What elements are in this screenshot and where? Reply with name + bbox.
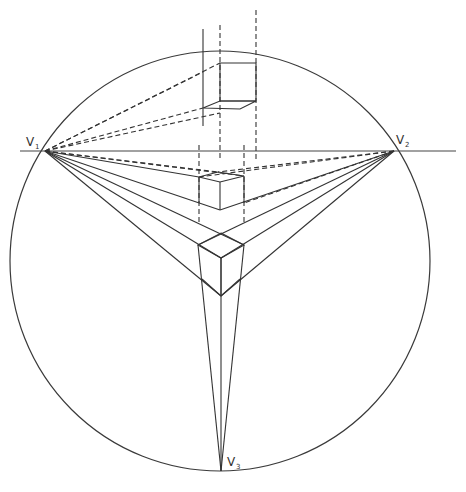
cube-top-projection	[203, 63, 256, 109]
ray	[221, 245, 244, 471]
ray	[45, 151, 221, 258]
ray	[45, 151, 220, 210]
label-v2: V 2	[396, 133, 409, 149]
ray	[45, 151, 221, 296]
cube-bottom-top	[198, 233, 244, 258]
cube-top-front-face	[220, 63, 256, 101]
ray	[221, 151, 394, 296]
label-v2-letter: V	[396, 133, 405, 147]
ray	[221, 151, 394, 258]
label-v1-subscript: 1	[35, 143, 39, 151]
cube-top-base	[203, 101, 256, 109]
label-v2-subscript: 2	[405, 141, 409, 149]
label-v3-subscript: 3	[236, 463, 240, 471]
ray	[45, 151, 244, 245]
label-v3-letter: V	[227, 455, 236, 469]
ray	[198, 151, 394, 245]
label-v1-letter: V	[26, 135, 35, 149]
ray	[45, 151, 218, 172]
ray	[198, 245, 221, 471]
v1-dashed-rays-top	[45, 63, 220, 151]
ray	[45, 108, 203, 151]
label-v3: V 3	[227, 455, 240, 471]
label-v1: V 1	[26, 135, 39, 151]
ray	[45, 151, 199, 177]
ray	[45, 72, 203, 151]
v3-rays	[198, 245, 244, 471]
ray	[220, 151, 394, 210]
perspective-diagram: V 1 V 2 V 3	[0, 0, 466, 492]
ray	[45, 113, 220, 151]
vertical-construction-lines	[199, 10, 256, 222]
